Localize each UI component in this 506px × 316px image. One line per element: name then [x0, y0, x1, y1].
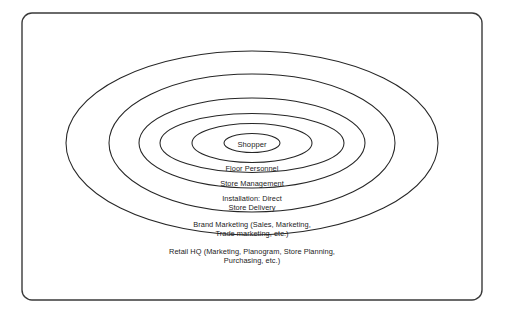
diagram-canvas: Shopper Floor Personnel Store Management… — [0, 0, 506, 316]
ring-label-floor-personnel: Floor Personnel — [226, 164, 279, 173]
ring-label-store-management: Store Management — [220, 179, 284, 188]
ring-label-brand-marketing: Brand Marketing (Sales, Marketing, Trade… — [193, 220, 311, 238]
ring-label-installation-direct-store-delivery: Installation: Direct Store Delivery — [222, 194, 282, 212]
ring-labels-layer: Shopper Floor Personnel Store Management… — [0, 0, 506, 316]
ring-label-shopper: Shopper — [237, 140, 266, 149]
ring-label-retail-hq: Retail HQ (Marketing, Planogram, Store P… — [169, 247, 335, 265]
